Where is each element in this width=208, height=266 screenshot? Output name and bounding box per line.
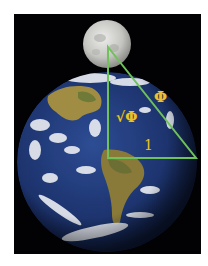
label-vertical-sqrt-phi: √Φ <box>116 110 137 124</box>
label-base-one: 1 <box>144 138 153 152</box>
label-hypotenuse-phi: Φ <box>154 90 167 105</box>
earth-moon-illustration <box>14 14 201 254</box>
image-panel: Φ √Φ 1 <box>14 14 201 254</box>
